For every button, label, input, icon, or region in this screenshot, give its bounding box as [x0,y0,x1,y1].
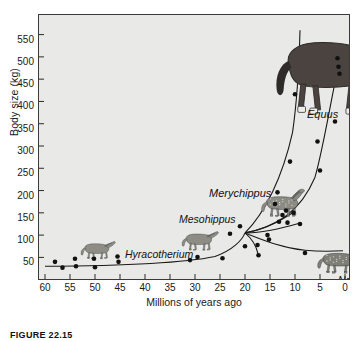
data-point [256,253,261,258]
x-axis-tick-label: 15 [257,282,283,293]
x-axis-tick-label: 50 [82,282,108,293]
data-point [298,222,303,227]
data-point [195,255,200,260]
plot-canvas [39,15,349,279]
y-axis-tick-label: 200 [0,189,34,200]
data-point [220,256,225,261]
x-axis-tick-labels: 605550454035302520151050 [38,282,350,296]
data-point [318,168,323,173]
x-axis-tick-label: 45 [107,282,133,293]
lineage-nannippus [245,233,343,251]
data-point [303,251,308,256]
data-point [337,72,342,77]
genus-label-mesohippus: Mesohippus [179,213,236,225]
data-point [265,233,270,238]
data-point [74,264,79,269]
data-point [267,237,272,242]
y-axis-tick-label: 250 [0,167,34,178]
x-axis-tick-label: 20 [232,282,258,293]
data-point [293,92,298,97]
plot-frame: Hyracotherium Mesohippus Merychippus Equ… [38,14,350,280]
x-axis-tick-label: 5 [307,282,333,293]
y-axis-tick-label: 300 [0,145,34,156]
data-point [92,256,97,261]
data-point [275,190,280,195]
data-point [255,243,260,248]
nannippus-illustration [318,250,349,273]
data-point [277,219,282,224]
data-point [335,56,340,61]
data-point [238,224,243,229]
data-point [285,220,290,225]
x-axis-tick-label: 60 [32,282,58,293]
data-point [243,244,248,249]
x-axis-title: Millions of years ago [38,296,350,308]
data-point [228,231,233,236]
data-point [60,265,65,270]
data-point [73,256,78,261]
data-point [284,208,289,213]
genus-label-hyracotherium: Hyracotherium [125,248,193,260]
x-axis-tick-label: 0 [332,282,358,293]
data-point [291,211,296,216]
data-point [93,265,98,270]
data-point [53,260,58,265]
y-axis-tick-label: 550 [0,33,34,44]
data-point [115,254,120,259]
x-axis-tick-label: 30 [182,282,208,293]
y-axis-tick-label: 450 [0,78,34,89]
data-point [288,159,293,164]
y-axis-tick-label: 400 [0,100,34,111]
genus-label-equus: Equus [307,108,338,120]
data-point [280,213,285,218]
y-axis-tick-label: 500 [0,55,34,66]
x-axis-tick-label: 10 [282,282,308,293]
genus-label-nannippus: Nannippus [338,274,349,279]
data-point [336,64,341,69]
plot-area: Hyracotherium Mesohippus Merychippus Equ… [39,15,349,279]
x-axis-tick-label: 35 [157,282,183,293]
y-axis-tick-label: 100 [0,234,34,245]
x-axis-tick-label: 25 [207,282,233,293]
x-axis-tick-label: 55 [57,282,83,293]
data-point [116,260,121,265]
y-axis-tick-labels: 50100150200250300350400450500550 [0,14,34,280]
y-axis-tick-label: 350 [0,122,34,133]
evolution-body-size-figure: Body size (kg) 5010015020025030035040045… [0,0,360,341]
genus-label-merychippus: Merychippus [209,187,271,199]
y-axis-tick-label: 150 [0,211,34,222]
y-axis-tick-label: 50 [0,256,34,267]
figure-caption: FIGURE 22.15 [10,330,73,340]
data-point [273,202,278,207]
data-point [315,139,320,144]
hyracotherium-illustration [81,242,115,259]
x-axis-tick-label: 40 [132,282,158,293]
